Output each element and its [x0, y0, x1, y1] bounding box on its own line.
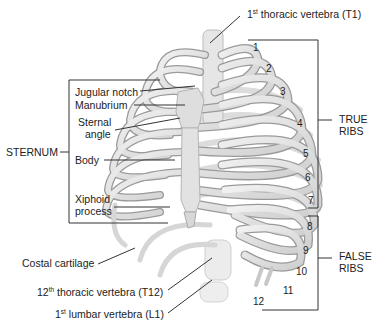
label-xiphoid-process: Xiphoidprocess: [75, 193, 112, 217]
label-sternum: STERNUM: [6, 146, 58, 158]
rib-number-6: 6: [305, 172, 311, 183]
label-manubrium: Manubrium: [75, 99, 128, 111]
rib-number-4: 4: [297, 118, 303, 129]
label-t12: 12th thoracic vertebra (T12): [37, 286, 163, 298]
rib-number-5: 5: [303, 148, 309, 159]
label-costal-cartilage: Costal cartilage: [22, 257, 94, 269]
label-l1: 1st lumbar vertebra (L1): [55, 308, 164, 320]
rib-number-12: 12: [253, 296, 264, 307]
rib-number-7: 7: [308, 195, 314, 206]
label-body: Body: [75, 154, 99, 166]
rib-number-3: 3: [280, 86, 286, 97]
label-true-ribs: TRUERIBS: [339, 113, 368, 137]
floating-ribs: [256, 268, 272, 285]
rib-cage-illustration: [0, 0, 385, 334]
rib-number-11: 11: [283, 285, 293, 296]
rib-number-1: 1: [253, 42, 259, 53]
rib-number-10: 10: [296, 266, 307, 277]
rib-number-8: 8: [307, 221, 313, 232]
label-sternal-angle: Sternalangle: [78, 116, 111, 140]
label-false-ribs: FALSERIBS: [339, 250, 372, 274]
label-jugular-notch: Jugular notch: [75, 86, 138, 98]
rib-number-2: 2: [266, 63, 272, 74]
rib-number-9: 9: [303, 245, 309, 256]
label-t1: 1st thoracic vertebra (T1): [247, 8, 361, 20]
